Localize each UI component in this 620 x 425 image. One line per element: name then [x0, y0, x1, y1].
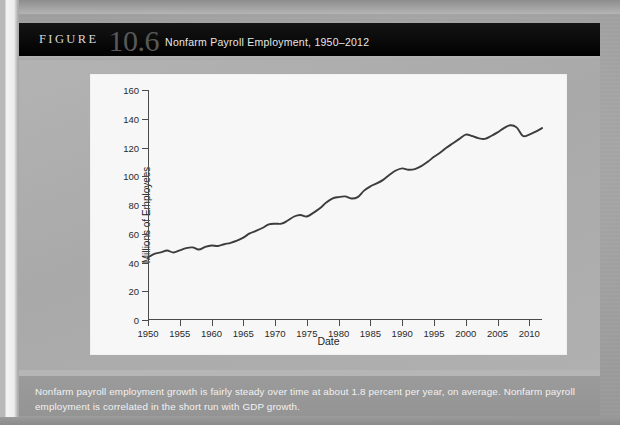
- figure-panel: Millions of Employees 020406080100120140…: [19, 60, 600, 370]
- y-tick-label: 140: [123, 113, 139, 124]
- x-tick-mark: [498, 320, 499, 326]
- chart-plot-card: Millions of Employees 020406080100120140…: [90, 74, 567, 355]
- y-tick-label: 40: [128, 257, 139, 268]
- x-tick-mark: [212, 320, 213, 326]
- x-tick-mark: [243, 320, 244, 326]
- x-tick-mark: [339, 320, 340, 326]
- x-tick-mark: [370, 320, 371, 326]
- figure-label: FIGURE: [39, 32, 99, 47]
- employment-line-chart: [148, 90, 542, 320]
- figure-header: FIGURE 10.6 Nonfarm Payroll Employment, …: [19, 23, 600, 56]
- page-left-margin: [0, 0, 19, 425]
- y-tick-label: 20: [128, 286, 139, 297]
- x-tick-mark: [402, 320, 403, 326]
- chart-axes: 020406080100120140160 195019551960196519…: [148, 90, 542, 320]
- x-tick-mark: [275, 320, 276, 326]
- y-tick-label: 80: [128, 200, 139, 211]
- y-tick-label: 60: [128, 228, 139, 239]
- figure-title: Nonfarm Payroll Employment, 1950–2012: [165, 36, 369, 48]
- page-bottom-edge: [0, 417, 620, 425]
- x-tick-mark: [148, 320, 149, 326]
- series-line-nonfarm-payroll-employment: [148, 125, 542, 257]
- x-tick-mark: [466, 320, 467, 326]
- x-tick-mark: [307, 320, 308, 326]
- x-tick-mark: [529, 320, 530, 326]
- y-tick-label: 100: [123, 171, 139, 182]
- y-tick-label: 0: [134, 315, 139, 326]
- figure-number: 10.6: [109, 26, 160, 56]
- x-axis-label: Date: [90, 335, 567, 347]
- x-tick-mark: [180, 320, 181, 326]
- y-tick-label: 160: [123, 85, 139, 96]
- x-tick-mark: [434, 320, 435, 326]
- page-top-edge: [0, 0, 620, 14]
- y-tick-label: 120: [123, 142, 139, 153]
- figure-note: Nonfarm payroll employment growth is fai…: [19, 376, 600, 416]
